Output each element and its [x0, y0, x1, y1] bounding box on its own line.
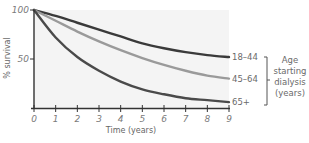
- x-axis-label: Time (years): [105, 126, 156, 135]
- x-tick-label: 0: [31, 114, 37, 124]
- x-tick-label: 2: [74, 114, 80, 124]
- series-label: 18–44: [232, 52, 258, 62]
- survival-chart: 0123456789 50100 Time (years) % survival…: [0, 0, 309, 143]
- legend-title-line: Age: [282, 55, 298, 65]
- x-tick-label: 9: [226, 114, 232, 124]
- y-tick-label: 50: [18, 54, 30, 64]
- legend-title: Agestartingdialysis(years): [274, 55, 307, 98]
- x-tick-label: 8: [204, 114, 210, 124]
- legend-bracket: [264, 57, 270, 105]
- series-labels: 18–4445–6465+: [232, 52, 258, 107]
- series-label: 45–64: [232, 74, 258, 84]
- series-label: 65+: [232, 97, 250, 107]
- x-tick-label: 3: [96, 114, 102, 124]
- y-tick-label: 100: [12, 5, 29, 15]
- legend-title-line: dialysis: [274, 77, 306, 87]
- x-tick-label: 1: [53, 114, 59, 124]
- x-tick-label: 7: [183, 114, 189, 124]
- y-axis-label: % survival: [3, 37, 12, 79]
- legend-title-line: (years): [275, 88, 305, 98]
- x-tick-label: 4: [118, 114, 124, 124]
- y-ticks: 50100: [12, 5, 34, 64]
- legend-title-line: starting: [274, 66, 307, 76]
- x-tick-label: 6: [161, 114, 167, 124]
- x-tick-label: 5: [139, 114, 145, 124]
